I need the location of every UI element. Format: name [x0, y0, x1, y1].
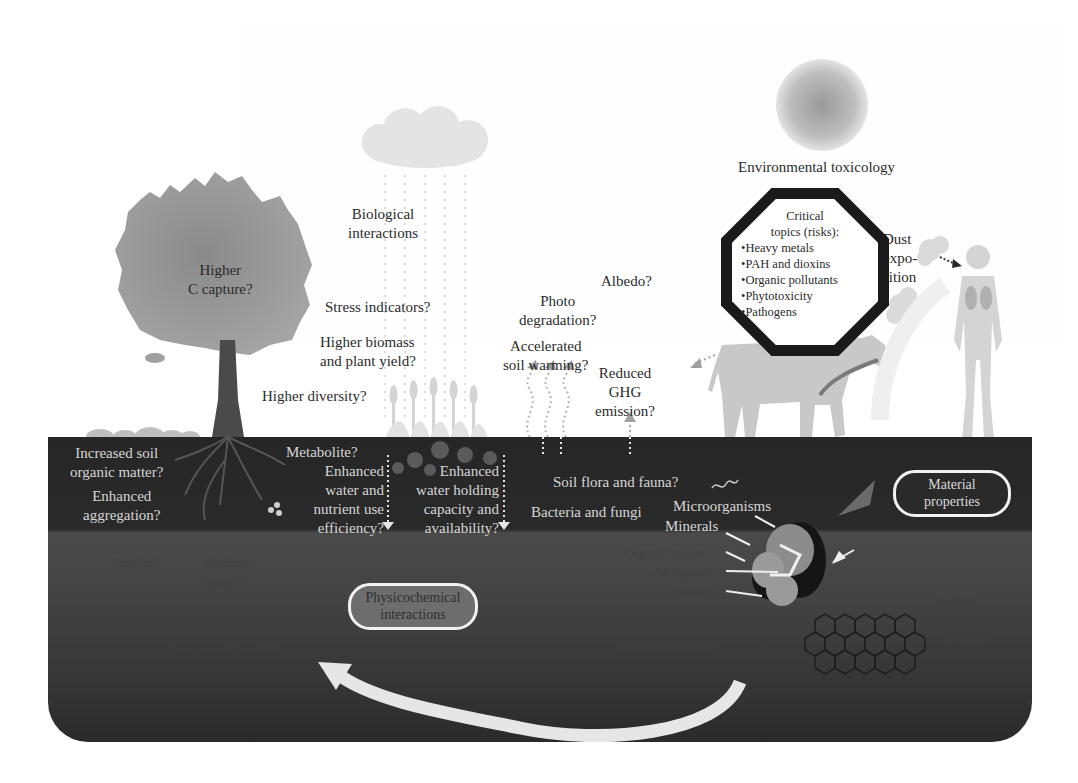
- label-stress-indicators: Stress indicators?: [325, 298, 430, 317]
- label-organic-matter: Organic matter: [625, 543, 703, 562]
- critical-topics-text: Critical topics (risks): Heavy metals PA…: [735, 208, 875, 320]
- physicochemical-interactions-badge: Physicochemical interactions: [348, 583, 478, 630]
- label-metabolite: Metabolite?: [286, 443, 358, 462]
- octagon-heading: topics (risks):: [735, 224, 875, 240]
- carbon-lattice-icon: [805, 614, 925, 674]
- label-soil-warming: Accelerated soil warming?: [503, 337, 588, 375]
- label-enhanced-aggregation: Enhanced aggregation?: [83, 487, 160, 525]
- critical-topics-octagon: Critical topics (risks): Heavy metals PA…: [721, 188, 889, 356]
- label-higher-biomass: Higher biomass and plant yield?: [320, 333, 416, 371]
- label-water-nutrient-efficiency: Enhanced water and nutrient use efficien…: [290, 462, 384, 538]
- octagon-heading: Critical: [735, 208, 875, 224]
- badge-line: interactions: [351, 606, 475, 623]
- label-hydrophobicity: Hydrophobicity?: [606, 617, 694, 636]
- label-microorganisms: Microorganisms: [673, 497, 771, 516]
- worm-icon: [712, 480, 738, 488]
- label-photo-degradation: Photo degradation?: [519, 292, 596, 330]
- material-properties-badge: Material properties: [893, 470, 1011, 517]
- label-bacteria-fungi: Bacteria and fungi: [531, 503, 642, 522]
- cycle-arrow-icon: [318, 662, 740, 736]
- label-minerals: Minerals: [665, 517, 718, 536]
- nutrient-particles-icon: [268, 502, 282, 516]
- label-porosity: Porosity: [945, 628, 988, 647]
- label-erosion: Erosion?: [112, 553, 158, 572]
- soil-amendment-diagram: Higher C capture? Biological interaction…: [0, 0, 1078, 783]
- label-soil-organic-matter: Increased soil organic matter?: [70, 444, 163, 482]
- soil-illustration-layer: [0, 0, 1078, 783]
- label-water-repellency: Water repellency?: [620, 638, 714, 657]
- label-nutrient-runoff: Nutrient runoff?: [206, 553, 249, 591]
- badge-line: properties: [896, 493, 1008, 510]
- risk-item: Pathogens: [741, 304, 875, 320]
- label-water: Water: [678, 582, 709, 601]
- label-long-term-c-stock: Long-term C stock?: [170, 640, 274, 659]
- badge-line: Material: [896, 473, 1008, 493]
- badge-line: Physicochemical: [351, 586, 475, 606]
- label-environmental-toxicology: Environmental toxicology: [738, 158, 895, 177]
- label-higher-c-capture: Higher C capture?: [188, 261, 253, 299]
- risk-item: Phytotoxicity: [741, 288, 875, 304]
- zoom-wedge-icon: [838, 480, 875, 516]
- label-albedo: Albedo?: [601, 272, 652, 291]
- risk-item: Organic pollutants: [741, 272, 875, 288]
- risk-item: PAH and dioxins: [741, 256, 875, 272]
- label-water-holding-capacity: Enhanced water holding capacity and avai…: [394, 462, 499, 538]
- risk-list: Heavy metals PAH and dioxins Organic pol…: [735, 240, 875, 320]
- tree-roots-icon: [175, 437, 285, 520]
- label-biological-interactions: Biological interactions: [348, 205, 418, 243]
- label-higher-diversity: Higher diversity?: [262, 387, 367, 406]
- label-ghg-emission: Reduced GHG emission?: [595, 364, 655, 421]
- soil-aggregate-icon: [752, 522, 826, 606]
- label-surface: Surface: [937, 590, 977, 609]
- risk-item: Heavy metals: [741, 240, 875, 256]
- label-air-spaces: Air spaces: [654, 562, 709, 581]
- label-soil-flora-fauna: Soil flora and fauna?: [553, 473, 678, 492]
